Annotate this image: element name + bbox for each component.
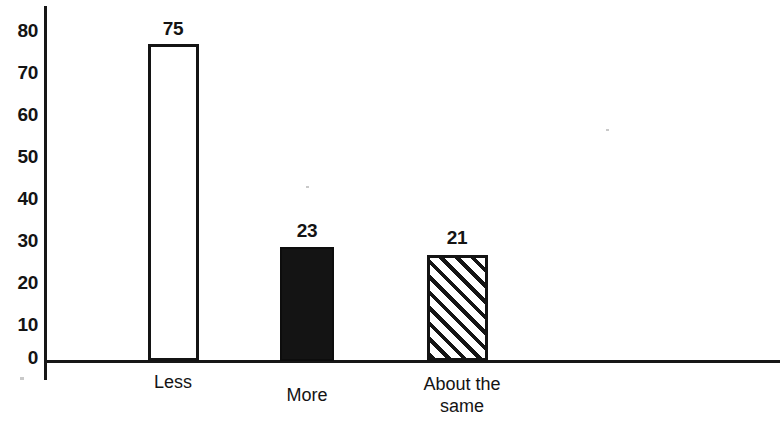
bar-more[interactable]	[280, 247, 334, 361]
bar-chart: 80 70 60 50 40 30 20 10 0 75 23 21 Less …	[0, 0, 780, 428]
category-label-less: Less	[133, 371, 213, 393]
y-tick-60: 60	[4, 105, 38, 124]
scan-speck	[20, 377, 24, 380]
scan-speck	[606, 129, 609, 131]
category-label-about-the-same: About the same	[397, 373, 527, 417]
value-label-more: 23	[267, 221, 347, 241]
y-tick-40: 40	[4, 189, 38, 208]
plot-area	[47, 6, 780, 361]
y-tick-30: 30	[4, 231, 38, 250]
y-tick-80: 80	[4, 21, 38, 40]
bar-about-the-same[interactable]	[427, 255, 488, 361]
y-tick-70: 70	[4, 63, 38, 82]
value-label-about-the-same: 21	[417, 228, 497, 248]
y-tick-50: 50	[4, 147, 38, 166]
y-tick-0: 0	[4, 348, 38, 367]
y-tick-20: 20	[4, 273, 38, 292]
scan-speck	[306, 186, 309, 188]
category-label-more: More	[267, 384, 347, 406]
bar-less[interactable]	[148, 44, 199, 361]
value-label-less: 75	[133, 19, 213, 39]
y-tick-10: 10	[4, 315, 38, 334]
y-axis-tick-labels: 80 70 60 50 40 30 20 10 0	[0, 0, 38, 428]
